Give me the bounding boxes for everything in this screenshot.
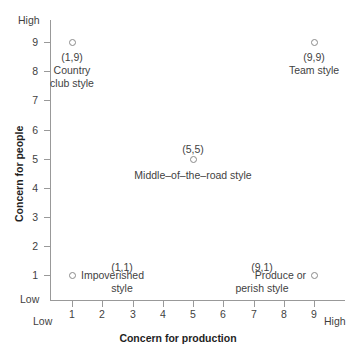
data-point-1-9-name-line1: Country	[22, 64, 122, 77]
data-point-9-9[interactable]	[311, 39, 318, 46]
data-point-5-5-coord: (5,5)	[143, 143, 243, 156]
data-point-1-1[interactable]	[69, 272, 76, 279]
data-point-9-1-name-line1: Produce or	[186, 269, 306, 282]
data-point-5-5-name-line1: Middle–of–the–road style	[108, 169, 278, 182]
data-point-5-5[interactable]	[190, 156, 197, 163]
data-point-1-1-name-line2: style	[72, 282, 172, 295]
data-point-1-1-name-line1: Impoverished	[81, 269, 201, 282]
data-point-9-1-name-line2: perish style	[212, 282, 312, 295]
data-point-1-9[interactable]	[69, 39, 76, 46]
data-point-9-9-name-line1: Team style	[264, 64, 356, 77]
data-point-1-9-name-line2: club style	[22, 77, 122, 90]
data-point-1-9-coord: (1,9)	[22, 51, 122, 64]
data-point-9-9-coord: (9,9)	[264, 51, 356, 64]
data-layer: (1,9) Country club style (9,9) Team styl…	[0, 0, 356, 358]
data-point-9-1[interactable]	[311, 272, 318, 279]
managerial-grid-chart: 9 8 7 6 5 4 3 2 1 High Low Concern for p…	[0, 0, 356, 358]
